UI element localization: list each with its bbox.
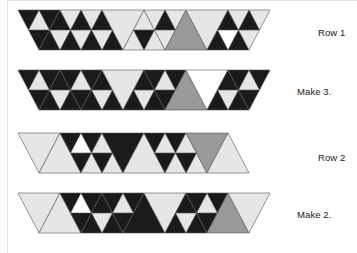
diagram-canvas: Row 1Make 3.Row 2Make 2.: [0, 0, 357, 253]
label-row-1: Row 1: [318, 27, 345, 38]
label-make-2: Make 2.: [297, 209, 332, 220]
label-row-2: Row 2: [318, 152, 345, 163]
label-make-3: Make 3.: [297, 86, 332, 97]
band-make-2-units: [18, 193, 270, 233]
